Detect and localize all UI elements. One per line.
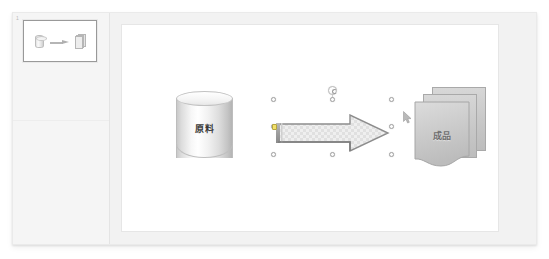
document-stack-label: 成品	[414, 129, 470, 142]
resize-handle-bottom-center[interactable]	[330, 152, 335, 157]
resize-handle-middle-right[interactable]	[389, 124, 394, 129]
shape-document-stack[interactable]: 成品	[414, 87, 488, 169]
block-arrow-graphic	[276, 114, 390, 152]
thumbnail-arrow-head	[62, 40, 69, 44]
slide-thumbnail-1[interactable]	[23, 20, 97, 62]
application-window: 1	[0, 0, 549, 259]
mouse-cursor	[403, 111, 412, 124]
document-front: 成品	[414, 101, 470, 167]
rotation-handle-icon[interactable]	[328, 86, 337, 95]
resize-handle-top-center[interactable]	[330, 97, 335, 102]
slide-canvas[interactable]: 原料	[121, 24, 499, 232]
resize-handle-top-right[interactable]	[389, 97, 394, 102]
shape-block-arrow[interactable]	[274, 88, 392, 154]
resize-handle-top-left[interactable]	[271, 97, 276, 102]
slide-number-label: 1	[16, 15, 19, 21]
app-frame: 1	[12, 12, 537, 245]
selection-bounding-box	[274, 100, 392, 154]
thumbnail-documents-icon	[75, 34, 86, 49]
thumbnail-doc-front	[75, 36, 83, 49]
shape-adjustment-handle[interactable]	[272, 124, 277, 130]
thumbnail-arrow-icon	[50, 40, 69, 45]
slide-thumbnail-pane[interactable]: 1	[13, 13, 110, 244]
thumbnail-cylinder-icon	[35, 35, 44, 48]
shape-cylinder[interactable]: 原料	[176, 91, 233, 165]
resize-handle-bottom-left[interactable]	[271, 152, 276, 157]
slide-edit-surface[interactable]: 原料	[110, 13, 536, 244]
thumbnail-pane-divider	[13, 120, 110, 121]
cylinder-top	[176, 91, 233, 106]
resize-handle-bottom-right[interactable]	[389, 152, 394, 157]
cylinder-label: 原料	[176, 122, 233, 135]
slide-thumbnail-content	[24, 21, 96, 61]
